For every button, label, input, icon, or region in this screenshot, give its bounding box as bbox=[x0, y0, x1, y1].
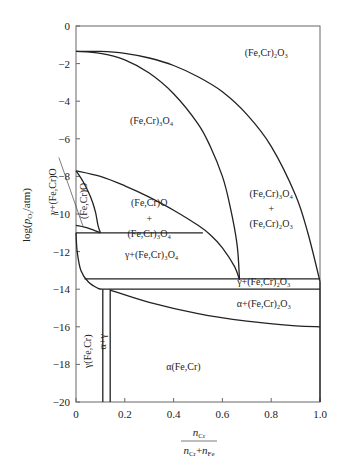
y-tick-label: −6 bbox=[58, 133, 70, 145]
boundary-spinel-corundum-upper bbox=[76, 51, 320, 281]
region-label: α+γ bbox=[98, 334, 109, 350]
region-label: (Fe,Cr)₂O₃ bbox=[250, 218, 293, 230]
region-label: γ(Fe,Cr) bbox=[82, 334, 94, 369]
region-label: + bbox=[268, 203, 274, 214]
x-label-numerator: nCr bbox=[193, 426, 206, 440]
boundary-gamma-metal-edge bbox=[76, 233, 103, 289]
boundary-spinel-corundum-lower bbox=[76, 51, 240, 279]
boundary-wustite-lower bbox=[76, 225, 100, 233]
y-tick-label: −2 bbox=[58, 58, 70, 70]
y-tick-label: −16 bbox=[53, 321, 71, 333]
plot-frame bbox=[76, 26, 320, 402]
x-tick-label: 0.4 bbox=[167, 408, 181, 420]
x-axis-label: nCr nCr+nFe bbox=[181, 426, 217, 458]
y-tick-label: −12 bbox=[53, 246, 70, 258]
phase-diagram: 00.20.40.60.81.00−2−4−6−8−10−12−14−16−18… bbox=[0, 0, 347, 467]
y-tick-label: −14 bbox=[53, 283, 71, 295]
y-label-text: log(pO2/atm) bbox=[20, 188, 34, 242]
region-label: γ+(Fe,Cr)O bbox=[47, 168, 59, 215]
region-labels: (Fe,Cr)₂O₃(Fe,Cr)₃O₄(Fe,Cr)₃O₄+(Fe,Cr)₂O… bbox=[47, 47, 293, 373]
region-label: (Fe,Cr)₃O₄ bbox=[130, 115, 174, 127]
x-label-denominator: nCr+nFe bbox=[183, 444, 214, 458]
region-label: + bbox=[146, 213, 152, 224]
x-tick-label: 1.0 bbox=[313, 408, 327, 420]
region-label: (Fe,Cr)₃O₄ bbox=[128, 228, 172, 240]
region-label: (Fe,Cr)O bbox=[78, 183, 90, 219]
boundary-wustite-spinel-upper bbox=[76, 171, 240, 280]
x-tick-label: 0.8 bbox=[264, 408, 278, 420]
x-tick-label: 0.2 bbox=[118, 408, 132, 420]
region-label: (Fe,Cr)₂O₃ bbox=[245, 47, 288, 59]
y-tick-label: −20 bbox=[53, 396, 71, 408]
region-label: α+(Fe,Cr)₂O₃ bbox=[237, 298, 291, 310]
x-tick-label: 0.6 bbox=[216, 408, 230, 420]
y-tick-label: 0 bbox=[65, 20, 71, 32]
y-tick-label: −18 bbox=[53, 358, 71, 370]
region-label: γ+(Fe,Cr)₃O₄ bbox=[124, 249, 179, 261]
x-tick-label: 0 bbox=[73, 408, 79, 420]
y-tick-label: −4 bbox=[58, 95, 70, 107]
region-label: α(Fe,Cr) bbox=[166, 361, 200, 373]
y-axis-label: log(pO2/atm) bbox=[20, 188, 34, 242]
region-label: (Fe,Cr)₃O₄ bbox=[250, 188, 294, 200]
region-label: γ+(Fe,Cr)₂O₃ bbox=[236, 276, 290, 288]
region-label: (Fe,Cr)O bbox=[131, 197, 167, 209]
